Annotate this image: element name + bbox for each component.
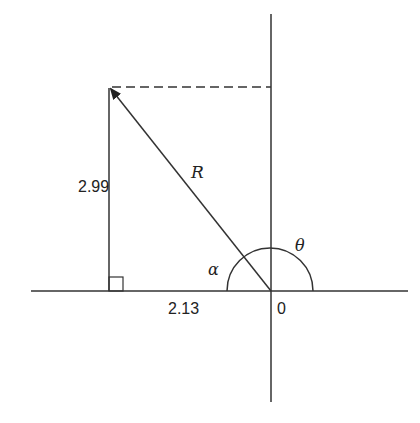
opposite-side-label: 2.99 xyxy=(78,179,109,195)
resultant-vector-R xyxy=(111,89,271,291)
theta-angle-label: θ xyxy=(295,238,305,254)
hypotenuse-label: R xyxy=(191,164,204,181)
alpha-angle-label: α xyxy=(208,262,219,278)
vector-diagram xyxy=(0,0,420,423)
origin-label: 0 xyxy=(277,301,286,317)
right-angle-marker xyxy=(109,277,123,291)
adjacent-side-label: 2.13 xyxy=(168,301,199,317)
